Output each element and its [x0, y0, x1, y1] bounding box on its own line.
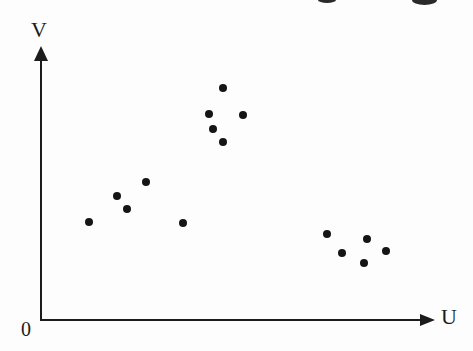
x-axis-line — [40, 319, 422, 321]
y-axis-line — [40, 56, 42, 321]
data-point — [219, 138, 227, 146]
origin-label: 0 — [21, 319, 31, 339]
scatter-figure: V U 0 — [0, 0, 473, 351]
data-point — [179, 219, 187, 227]
data-point — [142, 178, 150, 186]
data-point — [205, 110, 213, 118]
data-point — [123, 205, 131, 213]
data-point — [85, 218, 93, 226]
data-point — [360, 259, 368, 267]
y-axis-arrowhead-icon — [34, 46, 48, 61]
data-point — [338, 249, 346, 257]
data-point — [323, 230, 331, 238]
x-axis-arrowhead-icon — [420, 314, 435, 326]
data-point — [239, 111, 247, 119]
data-point — [219, 84, 227, 92]
data-point — [113, 192, 121, 200]
y-axis-label: V — [31, 19, 47, 41]
cropped-glyph-fragment — [318, 0, 336, 3]
data-point — [209, 125, 217, 133]
data-point — [382, 247, 390, 255]
x-axis-label: U — [441, 306, 457, 328]
cropped-glyph-fragment — [412, 0, 437, 5]
data-point — [363, 235, 371, 243]
